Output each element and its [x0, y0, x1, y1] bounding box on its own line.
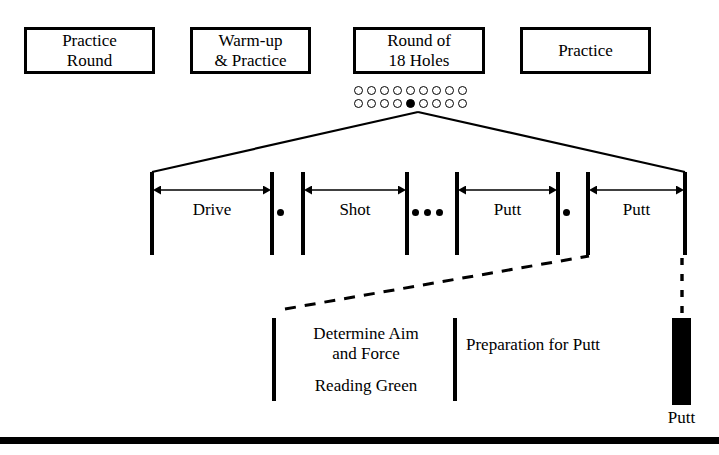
hole-icon[interactable]	[367, 99, 376, 108]
phase-box-label-line1: Practice	[558, 41, 613, 60]
separator-dots-sep-3	[563, 209, 570, 216]
hole-icon[interactable]	[393, 99, 402, 108]
hole-icon[interactable]	[445, 99, 454, 108]
detail-divider-bar-1	[272, 318, 276, 401]
hole-icon[interactable]	[367, 86, 376, 95]
phase-box-practice-round[interactable]: PracticeRound	[24, 27, 155, 74]
detail-text-line: Reading Green	[283, 376, 449, 396]
hole-current-icon[interactable]	[406, 99, 415, 108]
final-putt-block	[672, 318, 691, 405]
phase-box-label-line2: Round	[62, 51, 117, 70]
holes-row-1	[354, 86, 467, 95]
dashed-connector	[285, 256, 589, 309]
hole-icon[interactable]	[458, 86, 467, 95]
separator-dots-sep-1	[277, 209, 284, 216]
span-label-putt-1: Putt	[457, 200, 558, 220]
detail-text-line: Determine Aim	[283, 324, 449, 344]
span-label-putt-2: Putt	[588, 200, 685, 220]
detail-text-line: and Force	[283, 344, 449, 364]
diagram-canvas: PracticeRoundWarm-up& PracticeRound of18…	[0, 0, 719, 455]
phase-box-warm-up[interactable]: Warm-up& Practice	[190, 27, 311, 74]
phase-box-practice[interactable]: Practice	[520, 27, 651, 74]
hole-icon[interactable]	[445, 86, 454, 95]
hole-icon[interactable]	[432, 99, 441, 108]
detail-text-line: Preparation for Putt	[466, 335, 656, 355]
span-label-drive: Drive	[152, 200, 272, 220]
separator-dots-sep-2	[412, 209, 443, 216]
hole-icon[interactable]	[419, 86, 428, 95]
hole-icon[interactable]	[432, 86, 441, 95]
phase-box-label-line1: Round of	[387, 31, 451, 50]
hole-icon[interactable]	[393, 86, 402, 95]
hole-icon[interactable]	[380, 99, 389, 108]
phase-box-label-line1: Practice	[62, 31, 117, 50]
hole-icon[interactable]	[354, 86, 363, 95]
final-putt-label: Putt	[648, 408, 715, 428]
phase-box-label-line2: 18 Holes	[387, 51, 451, 70]
detail-text-preparation-for-putt: Preparation for Putt	[466, 335, 656, 355]
detail-divider-bar-2	[453, 318, 457, 401]
bottom-divider-rule	[0, 437, 719, 444]
detail-text-determine-aim: Determine Aimand Force	[283, 324, 449, 363]
hole-icon[interactable]	[419, 99, 428, 108]
phase-box-label-line1: Warm-up	[214, 31, 286, 50]
detail-text-reading-green: Reading Green	[283, 376, 449, 396]
hole-icon[interactable]	[380, 86, 389, 95]
hole-icon[interactable]	[458, 99, 467, 108]
hole-icon[interactable]	[354, 99, 363, 108]
span-label-shot: Shot	[303, 200, 407, 220]
hole-icon[interactable]	[406, 86, 415, 95]
fan-connector	[152, 112, 685, 172]
phase-box-round-18[interactable]: Round of18 Holes	[353, 27, 485, 74]
phase-box-label-line2: & Practice	[214, 51, 286, 70]
holes-row-2	[354, 99, 467, 108]
